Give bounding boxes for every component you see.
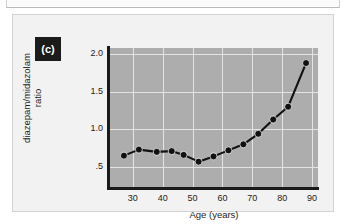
x-tick-label: 70: [240, 193, 264, 203]
x-tick-label: 80: [270, 193, 294, 203]
y-tick-label: .5: [77, 162, 103, 171]
gridline-vertical: [163, 48, 164, 188]
x-tick-label: 30: [121, 193, 145, 203]
gridline-vertical: [252, 48, 253, 188]
gridline-vertical: [282, 48, 283, 188]
gridline-vertical: [312, 48, 313, 188]
gridline-horizontal: [109, 54, 318, 55]
x-tick-label: 40: [151, 193, 175, 203]
x-tick-label: 60: [210, 193, 234, 203]
figure-panel: (c) .51.01.52.0 30405060708090 Age (year…: [12, 14, 334, 212]
figure-page: (c) .51.01.52.0 30405060708090 Age (year…: [0, 0, 346, 224]
gridline-horizontal: [109, 167, 318, 168]
gridline-vertical: [133, 48, 134, 188]
plot-area: [109, 48, 318, 188]
panel-letter-badge: (c): [35, 37, 61, 61]
y-tick-label: 1.5: [77, 87, 103, 96]
y-axis-title-line1: diazepam/midazolam: [21, 53, 32, 143]
gridline-vertical: [222, 48, 223, 188]
y-axis-tick-labels: .51.01.52.0: [75, 15, 103, 213]
y-axis-spine: [107, 46, 110, 190]
y-tick-label: 2.0: [77, 49, 103, 58]
gridline-horizontal: [109, 92, 318, 93]
x-axis-title: Age (years): [109, 209, 319, 220]
x-tick-label: 50: [181, 193, 205, 203]
x-tick-label: 90: [300, 193, 324, 203]
gridline-vertical: [193, 48, 194, 188]
x-axis-spine: [107, 187, 319, 190]
gridline-horizontal: [109, 129, 318, 130]
y-axis-title-line2: ratio: [32, 89, 43, 107]
y-tick-label: 1.0: [77, 124, 103, 133]
top-rule-divider: [6, 0, 340, 8]
